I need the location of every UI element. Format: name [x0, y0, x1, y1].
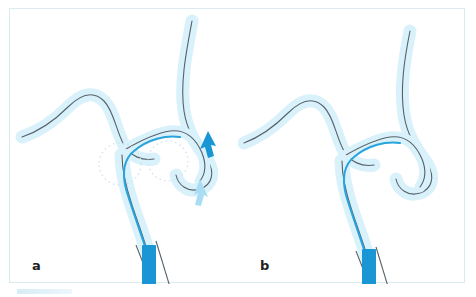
panel-b: b: [238, 9, 466, 284]
catheter-shaft-edge-right: [156, 241, 170, 284]
panel-b-label: b: [260, 259, 270, 272]
caption-accent-bar: [17, 289, 72, 294]
catheter-tip: [142, 245, 156, 284]
panel-a-illustration: [10, 9, 238, 284]
catheter-tip: [362, 249, 376, 284]
vessel-outflow-fill: [122, 155, 148, 253]
panel-a-label: a: [32, 259, 41, 272]
catheter-shaft-edge-right: [376, 247, 390, 284]
panel-b-illustration: [238, 9, 466, 284]
figure-root: a: [0, 0, 476, 297]
panel-a: a: [10, 9, 238, 284]
figure-frame: a: [9, 8, 465, 283]
vessel-outflow-fill: [342, 161, 368, 259]
